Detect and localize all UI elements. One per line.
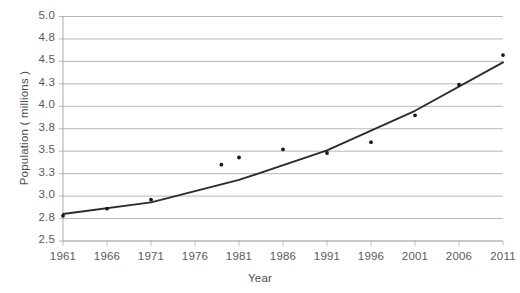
x-axis-tick-label: 1981 bbox=[217, 250, 261, 262]
x-axis-tick-label: 2011 bbox=[481, 250, 520, 262]
x-axis-tick-label: 1976 bbox=[173, 250, 217, 262]
x-axis-tick-label: 1991 bbox=[305, 250, 349, 262]
data-point bbox=[281, 148, 285, 152]
y-axis-tick-label: 3.0 bbox=[21, 188, 55, 200]
y-axis-tick-label: 4.8 bbox=[21, 31, 55, 43]
population-year-chart: Population ( millions ) 5.04.84.54.34.03… bbox=[0, 0, 520, 293]
data-point bbox=[149, 198, 153, 202]
trend-line-path bbox=[63, 62, 503, 214]
x-axis-tick-label: 2001 bbox=[393, 250, 437, 262]
y-axis-ticks bbox=[59, 17, 63, 242]
data-point bbox=[413, 113, 417, 117]
y-axis-tick-label: 5.0 bbox=[21, 9, 55, 21]
x-axis-title: Year bbox=[0, 272, 520, 284]
data-point bbox=[237, 156, 241, 160]
gridlines bbox=[63, 17, 503, 242]
x-axis-ticks bbox=[63, 241, 503, 246]
y-axis-tick-label: 3.8 bbox=[21, 121, 55, 133]
x-axis-tick-label: 1986 bbox=[261, 250, 305, 262]
y-axis-tick-label: 3.5 bbox=[21, 143, 55, 155]
y-axis-tick-label: 3.3 bbox=[21, 166, 55, 178]
data-point bbox=[457, 83, 461, 87]
y-axis-tick-label: 2.5 bbox=[21, 233, 55, 245]
x-axis-tick-label: 1971 bbox=[129, 250, 173, 262]
data-point bbox=[61, 214, 65, 218]
y-axis-tick-label: 4.5 bbox=[21, 53, 55, 65]
x-axis-tick-label: 1966 bbox=[85, 250, 129, 262]
y-axis-tick-label: 2.8 bbox=[21, 211, 55, 223]
trend-line bbox=[63, 62, 503, 214]
data-point bbox=[369, 140, 373, 144]
y-axis-tick-label: 4.0 bbox=[21, 98, 55, 110]
x-axis-tick-label: 1961 bbox=[41, 250, 85, 262]
data-point bbox=[105, 207, 109, 211]
data-point bbox=[220, 163, 224, 167]
data-point bbox=[325, 151, 329, 155]
data-points bbox=[61, 53, 505, 218]
y-axis-tick-label: 4.3 bbox=[21, 76, 55, 88]
x-axis-tick-label: 1996 bbox=[349, 250, 393, 262]
x-axis-tick-label: 2006 bbox=[437, 250, 481, 262]
data-point bbox=[501, 53, 505, 57]
